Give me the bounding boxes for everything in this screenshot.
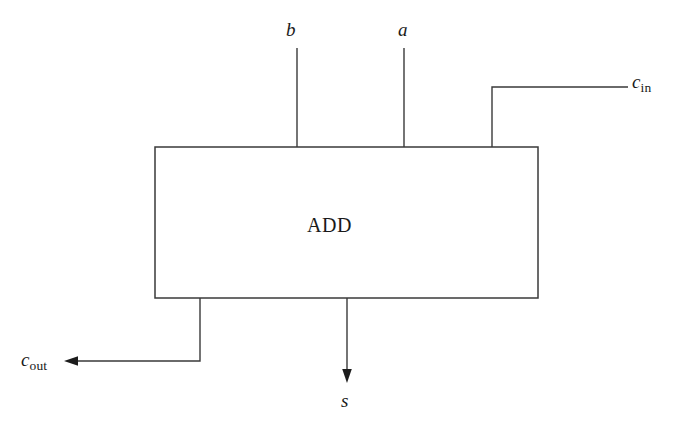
arrowhead-s-icon: [342, 369, 352, 383]
output-label-s: s: [341, 391, 348, 410]
wire-input-c-in: [492, 87, 628, 147]
add-block-label: ADD: [307, 215, 352, 235]
input-label-c-in: cin: [632, 72, 651, 95]
wire-output-c-out: [70, 298, 200, 361]
arrowhead-c-out-icon: [64, 356, 78, 366]
diagram-canvas: b a cin cout s ADD: [0, 0, 687, 425]
input-label-c-in-subscript: in: [640, 80, 651, 95]
output-label-c-out: cout: [21, 350, 47, 373]
circuit-diagram: [0, 0, 687, 425]
output-label-c-out-subscript: out: [29, 358, 47, 373]
input-label-b: b: [286, 20, 296, 39]
input-label-a: a: [398, 20, 408, 39]
